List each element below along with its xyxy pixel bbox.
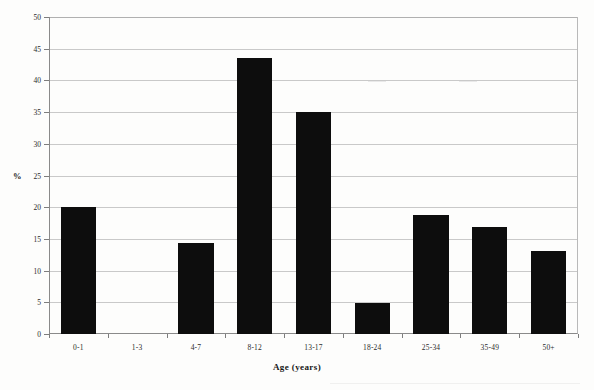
y-tick-label-10: 10 [34, 266, 42, 275]
y-tick-label-20: 20 [34, 203, 42, 212]
bar-25-34 [413, 215, 448, 334]
x-tick-mark-1 [108, 334, 109, 338]
x-tick-mark-2 [167, 334, 168, 338]
y-tick-label-45: 45 [34, 44, 42, 53]
x-tick-mark-8 [519, 334, 520, 338]
y-tick-label-40: 40 [34, 76, 42, 85]
bar-50+ [531, 251, 566, 334]
x-tick-label-35-49: 35-49 [481, 343, 500, 352]
x-axis-title: Age (years) [0, 362, 594, 372]
bar-4-7 [178, 243, 213, 334]
x-tick-label-13-17: 13-17 [304, 343, 323, 352]
bar-35-49 [472, 227, 507, 334]
scan-artifact [330, 383, 580, 384]
x-tick-label-1-3: 1-3 [132, 343, 143, 352]
y-tick-label-50: 50 [34, 13, 42, 22]
x-tick-mark-4 [284, 334, 285, 338]
bar-8-12 [237, 58, 272, 334]
x-tick-mark-0 [49, 334, 50, 338]
bar-chart-figure: 05101520253035404550 % 0-11-34-78-1213-1… [0, 0, 594, 390]
x-tick-mark-9 [578, 334, 579, 338]
y-tick-label-25: 25 [34, 171, 42, 180]
x-tick-label-50+: 50+ [542, 343, 554, 352]
x-tick-label-8-12: 8-12 [247, 343, 262, 352]
x-tick-mark-3 [225, 334, 226, 338]
x-tick-mark-5 [343, 334, 344, 338]
y-tick-label-30: 30 [34, 139, 42, 148]
y-axis: 05101520253035404550 [0, 0, 49, 390]
y-tick-label-15: 15 [34, 234, 42, 243]
y-tick-label-5: 5 [37, 298, 41, 307]
bars-layer [49, 17, 578, 334]
x-tick-mark-6 [402, 334, 403, 338]
y-axis-title: % [13, 171, 22, 181]
y-tick-label-35: 35 [34, 108, 42, 117]
x-tick-label-4-7: 4-7 [191, 343, 202, 352]
x-tick-label-0-1: 0-1 [73, 343, 84, 352]
bar-0-1 [61, 207, 96, 334]
x-tick-mark-7 [460, 334, 461, 338]
y-tick-label-0: 0 [37, 330, 41, 339]
x-tick-label-25-34: 25-34 [422, 343, 441, 352]
x-tick-label-18-24: 18-24 [363, 343, 382, 352]
bar-13-17 [296, 112, 331, 334]
bar-18-24 [355, 303, 390, 334]
